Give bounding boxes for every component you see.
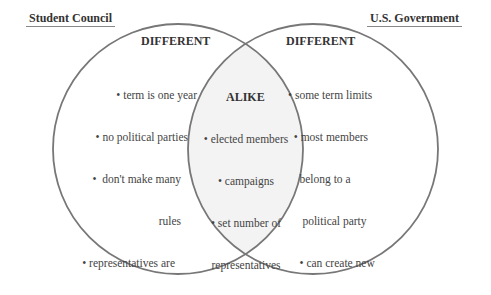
left-set-list: • term is one year • no political partie… bbox=[82, 60, 197, 295]
left-set-title: Student Council bbox=[26, 11, 115, 27]
right-set-list: • some term limits • most members belong… bbox=[288, 60, 381, 295]
right-item-line: • can create new bbox=[288, 256, 381, 270]
right-item-line: belong to a bbox=[288, 172, 381, 186]
intersection-item-line: representatives bbox=[188, 258, 304, 272]
right-heading: DIFFERENT bbox=[286, 34, 355, 48]
intersection-item-line: • set number of bbox=[188, 216, 304, 230]
left-heading: DIFFERENT bbox=[141, 34, 210, 48]
left-item-line: • term is one year bbox=[82, 88, 197, 102]
intersection-item-line: • elected members bbox=[188, 132, 304, 146]
intersection-heading: ALIKE bbox=[226, 90, 265, 104]
right-item-line: • most members bbox=[288, 130, 381, 144]
left-item-line: • don't make many bbox=[82, 172, 181, 186]
right-set-title: U.S. Government bbox=[367, 11, 462, 27]
left-item-line: rules bbox=[82, 214, 181, 228]
intersection-list: • elected members • campaigns • set numb… bbox=[188, 104, 304, 295]
right-item-line: • some term limits bbox=[288, 88, 381, 102]
left-item-line: • no political parties bbox=[82, 130, 188, 144]
left-item-line: • representatives are bbox=[82, 256, 175, 270]
right-item-line: political party bbox=[288, 214, 381, 228]
intersection-item-line: • campaigns bbox=[188, 174, 304, 188]
